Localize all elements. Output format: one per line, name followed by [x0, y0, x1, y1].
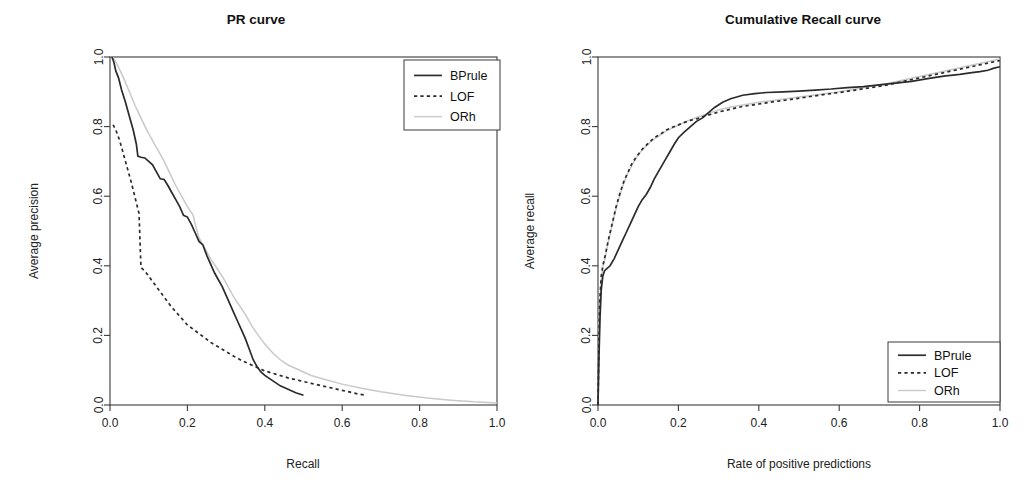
- y-tick-label: 0.6: [92, 188, 106, 205]
- legend-label-lof: LOF: [934, 366, 959, 380]
- y-tick-label: 0.4: [92, 257, 106, 274]
- series-line-lof: [113, 125, 365, 395]
- pr-y-axis-label: Average precision: [27, 183, 41, 279]
- legend-label-orh: ORh: [934, 384, 960, 398]
- y-tick-label: 0.4: [580, 257, 594, 274]
- y-tick-label: 0.6: [580, 188, 594, 205]
- x-tick-label: 0.8: [911, 416, 928, 430]
- legend-label-bprule: BPrule: [450, 69, 488, 83]
- pr-curve-title: PR curve: [227, 12, 286, 27]
- x-tick-label: 0.2: [179, 416, 196, 430]
- y-tick-label: 0.2: [92, 327, 106, 344]
- x-tick-label: 0.0: [102, 416, 119, 430]
- panel-pr-curve: PR curve 0.00.20.40.60.81.00.00.20.40.60…: [0, 0, 513, 498]
- y-tick-label: 0.0: [92, 396, 106, 413]
- x-tick-label: 0.6: [334, 416, 351, 430]
- series-line-bprule: [112, 57, 304, 395]
- panel-cumulative-recall-curve: Cumulative Recall curve 0.00.20.40.60.81…: [513, 0, 1027, 498]
- x-tick-label: 1.0: [489, 416, 506, 430]
- cr-x-axis-label: Rate of positive predictions: [727, 457, 871, 471]
- y-tick-label: 0.8: [92, 118, 106, 135]
- cumulative-recall-title: Cumulative Recall curve: [725, 12, 882, 27]
- y-tick-label: 0.2: [580, 327, 594, 344]
- pr-curve-legend[interactable]: BPruleLOFORh: [404, 60, 500, 130]
- x-tick-label: 0.6: [831, 416, 848, 430]
- cr-y-axis-label: Average recall: [523, 193, 537, 270]
- x-tick-label: 0.4: [256, 416, 273, 430]
- x-tick-label: 0.4: [750, 416, 767, 430]
- y-tick-label: 0.0: [580, 396, 594, 413]
- x-tick-label: 0.2: [670, 416, 687, 430]
- x-tick-label: 0.0: [590, 416, 607, 430]
- cumulative-recall-legend[interactable]: BPruleLOFORh: [888, 342, 1000, 402]
- y-tick-label: 1.0: [92, 48, 106, 65]
- pr-curve-svg: PR curve 0.00.20.40.60.81.00.00.20.40.60…: [0, 0, 513, 498]
- cumulative-recall-curve-svg: Cumulative Recall curve 0.00.20.40.60.81…: [513, 0, 1027, 498]
- y-tick-label: 1.0: [580, 48, 594, 65]
- pr-x-axis-label: Recall: [286, 457, 319, 471]
- y-tick-label: 0.8: [580, 118, 594, 135]
- x-tick-label: 0.8: [411, 416, 428, 430]
- figure-root: PR curve 0.00.20.40.60.81.00.00.20.40.60…: [0, 0, 1027, 498]
- legend-label-lof: LOF: [450, 90, 475, 104]
- legend-label-bprule: BPrule: [934, 349, 972, 363]
- x-tick-label: 1.0: [992, 416, 1009, 430]
- legend-label-orh: ORh: [450, 110, 476, 124]
